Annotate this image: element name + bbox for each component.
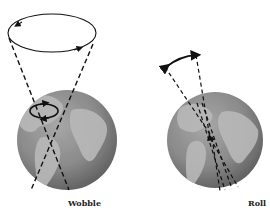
- roll-panel: [165, 55, 263, 191]
- diagram-canvas: Wobble Roll: [0, 0, 270, 215]
- roll-label: Roll: [248, 198, 266, 208]
- wobble-panel: [8, 14, 117, 190]
- globe-right: [167, 92, 263, 188]
- roll-arc: [166, 55, 196, 67]
- double-arrow-arc-icon: [166, 55, 196, 67]
- precession-ellipse: [8, 14, 96, 52]
- wobble-label: Wobble: [68, 198, 101, 208]
- diagram-svg: [0, 0, 270, 215]
- circular-arrow-icon: [17, 22, 22, 25]
